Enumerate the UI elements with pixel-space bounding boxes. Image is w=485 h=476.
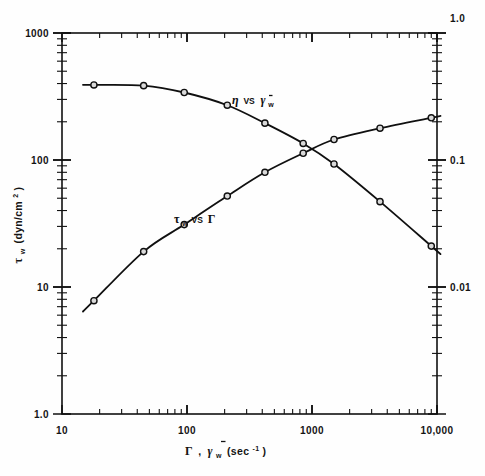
capital-gamma-symbol: Γ xyxy=(208,212,216,226)
data-point-marker xyxy=(428,243,434,249)
data-point-marker xyxy=(91,298,97,304)
rheology-log-log-chart: 10100100010,000 1000100101.0 1.00.10.01 … xyxy=(0,0,485,476)
data-point-marker xyxy=(181,89,187,95)
chart-background xyxy=(0,0,485,476)
data-point-marker xyxy=(377,199,383,205)
y-right-tick-label: 0.01 xyxy=(450,282,471,293)
x-comma: , xyxy=(198,445,201,457)
y-left-tick-label: 10 xyxy=(37,282,49,293)
y-left-tick-label: 1.0 xyxy=(34,409,49,420)
data-point-marker xyxy=(141,249,147,255)
y-tau-symbol: τ xyxy=(11,257,25,263)
y-left-tick-label: 100 xyxy=(31,155,49,166)
x-tick-label: 100 xyxy=(178,425,196,436)
tau-symbol: τ xyxy=(174,212,180,226)
y-units-sup: 2 xyxy=(12,194,19,198)
x-tick-label: 10,000 xyxy=(421,425,454,436)
eta-vs-text: VS xyxy=(243,96,255,106)
x-units-open: (sec xyxy=(227,445,249,457)
eta-sub-w: w xyxy=(267,101,274,108)
x-sub-w: w xyxy=(215,452,222,459)
y-units-open: (dyn/cm xyxy=(12,201,24,243)
x-gamma-big: Γ xyxy=(185,444,193,458)
figure-root: 10100100010,000 1000100101.0 1.00.10.01 … xyxy=(0,0,485,476)
data-point-marker xyxy=(428,115,434,121)
tau-vs-text: VS xyxy=(192,215,204,225)
y-left-tick-label: 1000 xyxy=(25,28,49,39)
data-point-marker xyxy=(224,102,230,108)
data-point-marker xyxy=(331,161,337,167)
x-units-sup: -1 xyxy=(253,445,260,452)
eta-symbol: η xyxy=(232,93,239,107)
data-point-marker xyxy=(91,82,97,88)
data-point-marker xyxy=(262,169,268,175)
gamma-dot-symbol: γ xyxy=(261,93,266,107)
data-point-marker xyxy=(300,150,306,156)
data-point-marker xyxy=(262,120,268,126)
y-units-close: ) xyxy=(12,187,24,191)
y-right-tick-label: 0.1 xyxy=(450,155,465,166)
data-point-marker xyxy=(331,136,337,142)
data-point-marker xyxy=(141,83,147,89)
data-point-marker xyxy=(377,125,383,131)
y-sub-w: w xyxy=(19,248,26,255)
x-gamma-w: γ xyxy=(208,444,213,458)
eta-curve-annotation: η VS γ w xyxy=(232,93,274,108)
svg-text:η VS γ: η VS γ w xyxy=(232,93,274,108)
data-point-marker xyxy=(300,140,306,146)
x-tick-label: 1000 xyxy=(300,425,324,436)
x-units-close: ) xyxy=(263,445,267,457)
x-tick-label: 10 xyxy=(56,425,68,436)
tau-sub-w: w xyxy=(181,220,188,227)
y-right-tick-label: 1.0 xyxy=(450,13,465,24)
data-point-marker xyxy=(224,193,230,199)
